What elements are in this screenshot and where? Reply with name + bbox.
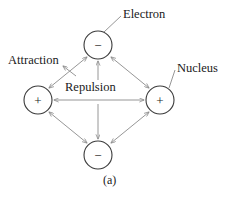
node-charge-glyph: +: [156, 93, 163, 108]
label-repulsion: Repulsion: [65, 81, 116, 94]
attraction-arrow-right-bottom: [111, 112, 149, 143]
attraction-arrow-right-top: [111, 57, 149, 88]
label-nucleus: Nucleus: [177, 62, 218, 75]
node-nucleus-left: +: [24, 86, 52, 114]
node-charge-glyph: −: [94, 148, 101, 163]
leader-line-electron: [104, 16, 121, 32]
node-nucleus-right: +: [146, 86, 174, 114]
attraction-arrow-left-bottom: [49, 112, 87, 143]
label-electron: Electron: [123, 8, 165, 21]
figure-panel: − + + − Electron Attraction Nucleus Repu…: [0, 0, 233, 224]
charge-interaction-diagram: − + + −: [0, 0, 233, 224]
label-attraction: Attraction: [8, 54, 59, 67]
node-electron-bottom: −: [84, 141, 112, 169]
figure-caption: (a): [103, 174, 116, 186]
node-charge-glyph: +: [34, 93, 41, 108]
leader-line-nucleus: [169, 70, 175, 88]
node-charge-glyph: −: [94, 38, 101, 53]
node-electron-top: −: [84, 31, 112, 59]
